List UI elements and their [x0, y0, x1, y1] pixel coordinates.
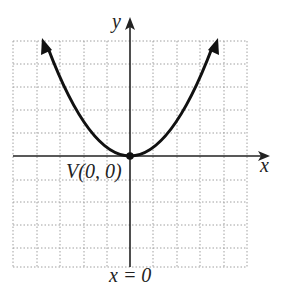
- vertex-label-text: V(0, 0): [66, 160, 122, 182]
- x-axis-label: x: [260, 154, 269, 177]
- graph-canvas: [0, 0, 281, 287]
- axis-of-symmetry-label: x = 0: [109, 264, 151, 287]
- vertex-point: [126, 152, 134, 160]
- vertex-label: V(0, 0): [66, 160, 122, 183]
- y-axis-label: y: [112, 10, 121, 33]
